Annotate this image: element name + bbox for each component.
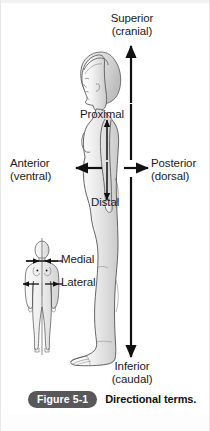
label-anterior-secondary: (ventral) bbox=[10, 170, 86, 183]
body-silhouette bbox=[71, 109, 119, 366]
label-inferior: Inferior (caudal) bbox=[102, 360, 162, 386]
label-anterior: Anterior (ventral) bbox=[10, 157, 86, 183]
calf-contour bbox=[116, 280, 118, 312]
label-anterior-primary: Anterior bbox=[10, 157, 49, 169]
face-shape bbox=[82, 55, 107, 111]
figure-caption: Figure 5-1 Directional terms. bbox=[1, 388, 210, 410]
figure-caption-text: Directional terms. bbox=[105, 393, 196, 405]
label-posterior: Posterior (dorsal) bbox=[151, 157, 210, 183]
label-lateral: Lateral bbox=[61, 276, 95, 289]
label-posterior-primary: Posterior bbox=[151, 157, 196, 169]
nipple-left bbox=[37, 270, 39, 272]
figure-number-badge: Figure 5-1 bbox=[28, 391, 97, 408]
label-superior: Superior (cranial) bbox=[102, 12, 162, 38]
label-inferior-secondary: (caudal) bbox=[102, 373, 162, 386]
figure-panel: Superior (cranial) Inferior (caudal) Ant… bbox=[0, 0, 210, 431]
label-posterior-secondary: (dorsal) bbox=[151, 170, 210, 183]
female-anterior-view bbox=[25, 238, 59, 355]
label-distal: Distal bbox=[91, 196, 119, 209]
label-superior-primary: Superior bbox=[111, 12, 154, 24]
label-superior-secondary: (cranial) bbox=[102, 25, 162, 38]
label-proximal: Proximal bbox=[80, 108, 124, 121]
label-medial: Medial bbox=[61, 253, 94, 266]
female-lateral-view bbox=[71, 52, 121, 366]
nipple-right bbox=[46, 270, 48, 272]
label-inferior-primary: Inferior bbox=[115, 360, 150, 372]
